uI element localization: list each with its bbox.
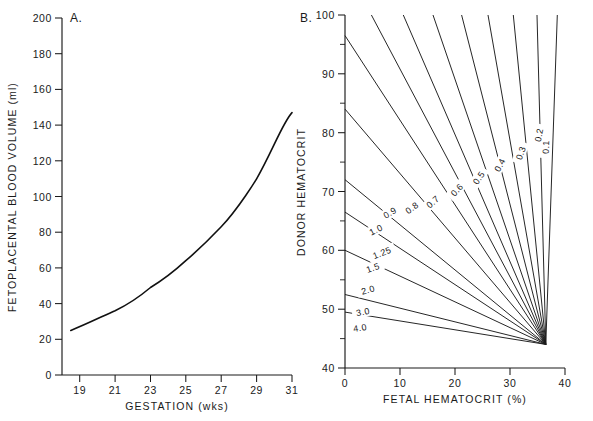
panel-a-x-ticks bbox=[80, 375, 292, 382]
x-tick-label: 19 bbox=[73, 384, 86, 396]
panel-b: B. bbox=[295, 9, 571, 405]
x-tick-label: 10 bbox=[394, 377, 407, 389]
panel-a-y-tick-labels: 200 180 160 140 120 100 80 60 40 20 0 bbox=[33, 12, 52, 381]
y-tick-label: 60 bbox=[39, 262, 52, 274]
y-tick-label: 100 bbox=[316, 9, 335, 21]
x-tick-label: 23 bbox=[144, 384, 157, 396]
figure-canvas: A. 200 180 160 bbox=[0, 0, 593, 421]
panel-b-label: B. bbox=[300, 11, 312, 25]
panel-a-label: A. bbox=[70, 11, 82, 25]
nomogram-label-2.0: 2.0 bbox=[360, 283, 376, 296]
y-tick-label: 200 bbox=[33, 12, 52, 24]
panel-b-y-ticks bbox=[338, 15, 345, 368]
y-tick-label: 40 bbox=[39, 298, 52, 310]
nomogram-line-0.9 bbox=[345, 36, 546, 345]
nomogram-line-4.0 bbox=[345, 312, 546, 344]
x-tick-label: 31 bbox=[286, 384, 299, 396]
panel-a-x-axis-title: GESTATION (wks) bbox=[125, 400, 229, 412]
panel-a-x-tick-labels: 19 21 23 25 27 29 31 bbox=[73, 384, 298, 396]
x-tick-label: 40 bbox=[559, 377, 572, 389]
nomogram-line-0.6 bbox=[433, 15, 546, 344]
panel-b-x-ticks bbox=[345, 368, 565, 375]
panel-b-y-axis-title: DONOR HEMATOCRIT bbox=[295, 128, 307, 256]
y-tick-label: 80 bbox=[322, 127, 335, 139]
x-tick-label: 21 bbox=[109, 384, 122, 396]
y-tick-label: 160 bbox=[33, 83, 52, 95]
y-tick-label: 60 bbox=[322, 244, 335, 256]
panel-b-y-tick-labels: 100 90 80 70 60 50 40 bbox=[316, 9, 335, 374]
x-tick-label: 30 bbox=[504, 377, 517, 389]
y-tick-label: 100 bbox=[33, 191, 52, 203]
y-tick-label: 40 bbox=[322, 362, 335, 374]
panel-b-nomogram-lines bbox=[345, 15, 557, 344]
nomogram-label-3.0: 3.0 bbox=[355, 306, 370, 318]
x-tick-label: 27 bbox=[215, 384, 228, 396]
nomogram-label-1.25: 1.25 bbox=[371, 245, 392, 261]
y-tick-label: 120 bbox=[33, 155, 52, 167]
x-tick-label: 25 bbox=[179, 384, 192, 396]
nomogram-line-0.1 bbox=[546, 15, 558, 344]
y-tick-label: 20 bbox=[39, 333, 52, 345]
y-tick-label: 140 bbox=[33, 119, 52, 131]
panel-a-y-ticks bbox=[55, 18, 62, 375]
nomogram-line-0.4 bbox=[488, 15, 546, 344]
figure-svg: A. 200 180 160 bbox=[0, 0, 593, 421]
y-tick-label: 0 bbox=[46, 369, 52, 381]
panel-a: A. 200 180 160 bbox=[6, 11, 298, 412]
y-tick-label: 50 bbox=[322, 303, 335, 315]
y-tick-label: 80 bbox=[39, 226, 52, 238]
nomogram-label-4.0: 4.0 bbox=[352, 322, 367, 334]
x-tick-label: 20 bbox=[449, 377, 462, 389]
y-tick-label: 70 bbox=[322, 186, 335, 198]
y-tick-label: 90 bbox=[322, 68, 335, 80]
panel-b-x-axis-title: FETAL HEMATOCRIT (%) bbox=[383, 393, 527, 405]
panel-a-y-axis-title: FETOPLACENTAL BLOOD VOLUME (ml) bbox=[6, 82, 18, 312]
x-tick-label: 29 bbox=[250, 384, 263, 396]
panel-a-data-curve bbox=[71, 113, 292, 331]
y-tick-label: 180 bbox=[33, 48, 52, 60]
x-tick-label: 0 bbox=[342, 377, 348, 389]
panel-b-x-tick-labels: 0 10 20 30 40 bbox=[342, 377, 572, 389]
